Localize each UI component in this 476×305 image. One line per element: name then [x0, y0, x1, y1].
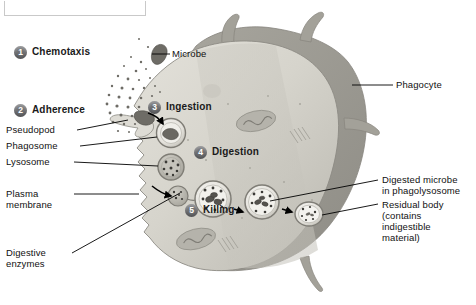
label-digestive-enzymes-line2: enzymes [6, 258, 45, 270]
label-pseudopod: Pseudopod [6, 124, 55, 136]
label-residual-body-line4: material) [382, 232, 420, 244]
cell-horn-top-right [300, 12, 324, 42]
phagolysosome-digested [245, 185, 279, 219]
label-digested-microbe-line1: Digested microbe [382, 174, 458, 186]
cell-organelle-blob [203, 84, 221, 98]
lysosome-vesicle [158, 154, 184, 180]
cell-horn-bottom [300, 256, 323, 291]
label-phagocyte: Phagocyte [396, 79, 442, 91]
step-label-killing: Killing [203, 204, 235, 215]
phagosome-vesicle [157, 119, 186, 148]
residual-body [295, 202, 323, 226]
leader-pseudopod [77, 120, 128, 130]
label-lysosome: Lysosome [6, 156, 50, 168]
label-digestive-enzymes-line1: Digestive [6, 247, 46, 259]
step-badge-3: 3 [148, 101, 161, 114]
step-badge-1: 1 [14, 46, 27, 59]
label-microbe: Microbe [172, 48, 207, 60]
label-residual-body-line2: (contains [382, 210, 421, 222]
label-plasma-membrane-line1: Plasma [6, 188, 38, 200]
step-label-chemotaxis: Chemotaxis [32, 46, 90, 57]
step-label-digestion: Digestion [212, 146, 259, 157]
label-plasma-membrane-line2: membrane [6, 199, 52, 211]
label-digested-microbe-line2: in phagolysosome [382, 185, 460, 197]
label-residual-body-line1: Residual body [382, 199, 444, 211]
step-label-adherence: Adherence [32, 104, 85, 115]
label-residual-body-line3: indigestible [382, 221, 431, 233]
step-badge-5: 5 [185, 204, 198, 217]
step-label-ingestion: Ingestion [166, 101, 212, 112]
step-badge-2: 2 [14, 104, 27, 117]
phagocytosis-diagram: 1 Chemotaxis 2 Adherence 3 Ingestion 4 D… [0, 0, 476, 305]
label-phagosome: Phagosome [6, 140, 58, 152]
step-badge-4: 4 [194, 146, 207, 159]
